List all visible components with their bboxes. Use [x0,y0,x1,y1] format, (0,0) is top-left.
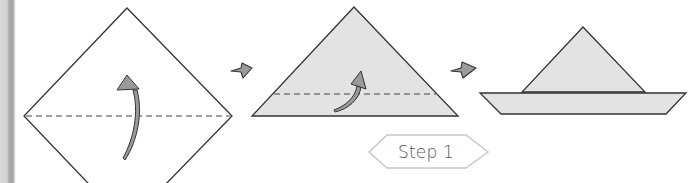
folding-diagram [0,0,691,183]
boat-sail [522,27,645,92]
panel-paper-boat [480,27,686,114]
right-arrow-icon [231,63,252,78]
step-badge-label: Step 1 [387,137,465,167]
panel-folded-triangle [252,7,458,116]
panel-square-diamond [24,8,232,183]
paper-diamond [24,8,232,183]
right-arrow-icon [451,62,476,78]
boat-hull [480,93,686,114]
